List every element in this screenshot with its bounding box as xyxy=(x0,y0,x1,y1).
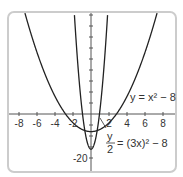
svg-text:-6: -6 xyxy=(33,118,42,129)
label-curve1: y = x² − 8 xyxy=(130,91,176,103)
svg-text:-4: -4 xyxy=(51,118,60,129)
label-curve2-num: y xyxy=(107,130,113,142)
label-curve2-rhs: = (3x)² − 8 xyxy=(117,137,168,149)
svg-text:4: 4 xyxy=(124,118,130,129)
svg-text:6: 6 xyxy=(142,118,148,129)
label-curve2-den: 2 xyxy=(107,143,113,155)
svg-text:8: 8 xyxy=(160,118,166,129)
y-tick-label: -20 xyxy=(73,153,88,164)
svg-text:-8: -8 xyxy=(15,118,24,129)
graph: -8-6-4-22468 y = x² − 8 y 2 = (3x)² − 8 … xyxy=(0,0,183,177)
